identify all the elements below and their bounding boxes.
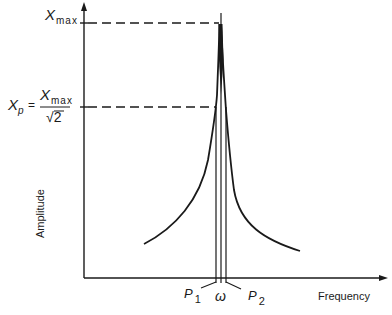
- p2-subscript: 2: [259, 295, 266, 307]
- y-axis-label: Amplitude: [34, 189, 46, 238]
- equals-sign: =: [28, 98, 35, 112]
- x-axis-arrow-icon: [379, 275, 388, 281]
- fraction-denominator: √2: [46, 109, 61, 125]
- x-axis-label: Frequency: [318, 290, 370, 302]
- omega-label: ω: [215, 288, 226, 304]
- p1-leader-line: [201, 282, 216, 288]
- p1-label: P1: [184, 284, 200, 302]
- p1-symbol: P: [184, 286, 193, 301]
- xmax-subscript: max: [56, 15, 78, 26]
- fraction-num-subscript: max: [51, 95, 73, 106]
- p2-leader-line: [226, 282, 241, 289]
- p2-symbol: P: [248, 288, 257, 303]
- response-curve-right: [221, 24, 300, 251]
- xmax-symbol: X: [45, 6, 55, 23]
- p1-subscript: 1: [195, 293, 202, 305]
- p2-label: P2: [248, 286, 264, 304]
- xp-label: Xp: [8, 96, 25, 114]
- fraction-numerator: Xmax: [40, 86, 72, 104]
- fraction-num-symbol: X: [40, 86, 50, 103]
- xmax-label: Xmax: [45, 6, 77, 24]
- xp-subscript: p: [18, 105, 25, 116]
- response-curve-left: [144, 24, 220, 244]
- resonance-diagram: [0, 0, 392, 315]
- y-axis-arrow-icon: [81, 2, 87, 11]
- xp-symbol: X: [8, 96, 18, 113]
